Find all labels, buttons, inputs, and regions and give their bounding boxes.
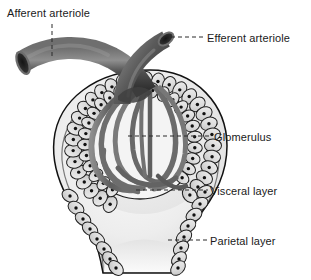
- label-visceral-layer: Visceral layer: [210, 185, 277, 197]
- cell-nucleus: [198, 202, 201, 205]
- label-glomerulus: Glomerulus: [214, 131, 271, 143]
- label-parietal-layer: Parietal layer: [210, 235, 276, 247]
- cell-nucleus: [156, 80, 159, 83]
- cell-nucleus: [83, 180, 86, 183]
- cell-nucleus: [207, 166, 210, 169]
- cell-nucleus: [188, 95, 191, 98]
- cell-nucleus: [210, 155, 213, 158]
- cell-nucleus: [180, 176, 183, 179]
- cell-nucleus: [176, 266, 179, 269]
- label-efferent-arteriole: Efferent arteriole: [207, 32, 290, 44]
- cell-nucleus: [73, 160, 76, 163]
- cell-nucleus: [77, 170, 80, 173]
- cell-nucleus: [100, 91, 103, 94]
- cell-nucleus: [74, 127, 77, 130]
- cell-nucleus: [88, 227, 91, 230]
- cell-nucleus: [192, 213, 195, 216]
- cell-nucleus: [81, 217, 84, 220]
- cell-nucleus: [186, 114, 189, 117]
- cell-nucleus: [78, 116, 81, 119]
- cell-nucleus: [91, 98, 94, 101]
- efferent-arteriole-lumen: [156, 30, 176, 48]
- cell-nucleus: [186, 224, 189, 227]
- cell-nucleus: [178, 88, 181, 91]
- cell-nucleus: [72, 138, 75, 141]
- cell-nucleus: [85, 154, 88, 157]
- cell-nucleus: [84, 132, 87, 135]
- cell-nucleus: [90, 189, 93, 192]
- cell-nucleus: [187, 167, 190, 170]
- cell-nucleus: [207, 122, 210, 125]
- cell-nucleus: [211, 144, 214, 147]
- cell-nucleus: [108, 96, 111, 99]
- cell-nucleus: [87, 121, 90, 124]
- cell-nucleus: [168, 83, 171, 86]
- cell-nucleus: [203, 176, 206, 179]
- cell-nucleus: [191, 124, 194, 127]
- cell-nucleus: [95, 237, 98, 240]
- cell-nucleus: [108, 257, 111, 260]
- cell-nucleus: [203, 190, 206, 193]
- cell-nucleus: [108, 203, 111, 206]
- cell-nucleus: [99, 197, 102, 200]
- cell-nucleus: [71, 149, 74, 152]
- cell-nucleus: [179, 246, 182, 249]
- cell-nucleus: [114, 266, 117, 269]
- cell-nucleus: [110, 85, 113, 88]
- label-afferent-arteriole: Afferent arteriole: [7, 7, 90, 19]
- cell-nucleus: [92, 112, 95, 115]
- cell-nucleus: [196, 103, 199, 106]
- cell-nucleus: [83, 143, 86, 146]
- cell-nucleus: [68, 194, 71, 197]
- cell-nucleus: [84, 107, 87, 110]
- cell-nucleus: [182, 235, 185, 238]
- cell-nucleus: [179, 105, 182, 108]
- cell-nucleus: [196, 185, 199, 188]
- cell-nucleus: [202, 112, 205, 115]
- cell-nucleus: [74, 206, 77, 209]
- cell-nucleus: [191, 157, 194, 160]
- cell-nucleus: [99, 103, 102, 106]
- cell-nucleus: [188, 193, 191, 196]
- cell-nucleus: [193, 146, 196, 149]
- cell-nucleus: [102, 247, 105, 250]
